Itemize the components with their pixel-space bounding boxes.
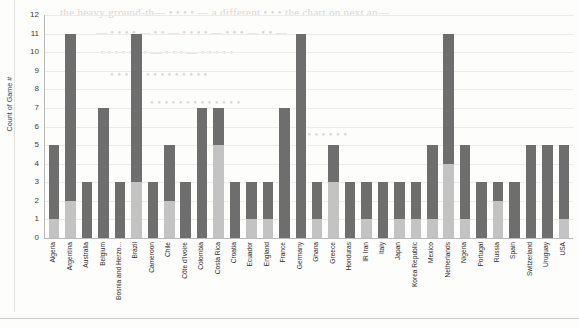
stacked-bar[interactable] — [65, 34, 76, 238]
stacked-bar[interactable] — [197, 108, 208, 238]
bar-column[interactable] — [194, 15, 210, 238]
bar-column[interactable] — [161, 15, 177, 238]
bar-segment-upper — [443, 34, 454, 164]
bar-segment-lower — [65, 201, 76, 238]
bar-column[interactable] — [556, 15, 572, 238]
bars-container — [45, 15, 573, 238]
bar-column[interactable] — [145, 15, 161, 238]
bar-column[interactable] — [375, 15, 391, 238]
stacked-bar[interactable] — [345, 182, 356, 238]
bar-column[interactable] — [210, 15, 226, 238]
bar-segment-lower — [411, 219, 422, 238]
x-axis-tick-label: Uruguay — [543, 242, 550, 267]
bar-column[interactable] — [243, 15, 259, 238]
stacked-bar[interactable] — [279, 108, 290, 238]
x-axis-label-slot: USA — [555, 240, 571, 320]
stacked-bar[interactable] — [131, 34, 142, 238]
bar-segment-lower — [460, 219, 471, 238]
bar-column[interactable] — [95, 15, 111, 238]
stacked-bar[interactable] — [542, 145, 553, 238]
stacked-bar[interactable] — [378, 182, 389, 238]
bar-column[interactable] — [325, 15, 341, 238]
bar-column[interactable] — [128, 15, 144, 238]
x-axis-label-slot: Bosnia and Herzo... — [111, 240, 127, 320]
bar-segment-upper — [476, 182, 487, 238]
stacked-bar[interactable] — [263, 182, 274, 238]
bar-segment-lower — [361, 219, 372, 238]
stacked-bar[interactable] — [328, 145, 339, 238]
bar-column[interactable] — [457, 15, 473, 238]
x-axis-label-slot: Netherlands — [440, 240, 456, 320]
stacked-bar[interactable] — [427, 145, 438, 238]
stacked-bar[interactable] — [476, 182, 487, 238]
bar-column[interactable] — [227, 15, 243, 238]
bar-segment-lower — [49, 219, 60, 238]
bar-segment-lower — [328, 182, 339, 238]
bar-column[interactable] — [358, 15, 374, 238]
bar-segment-upper — [82, 182, 93, 238]
x-axis-label-slot: Russia — [489, 240, 505, 320]
x-axis-label-slot: Japan — [390, 240, 406, 320]
x-axis-label-slot: Cameroon — [144, 240, 160, 320]
x-axis-label-slot: Australia — [78, 240, 94, 320]
y-axis-tick-label: 2 — [35, 197, 39, 205]
stacked-bar[interactable] — [411, 182, 422, 238]
x-axis-tick-label: Mexico — [428, 242, 435, 263]
stacked-bar[interactable] — [460, 145, 471, 238]
bar-column[interactable] — [424, 15, 440, 238]
bar-column[interactable] — [293, 15, 309, 238]
stacked-bar[interactable] — [526, 145, 537, 238]
x-axis-label-slot: Portugal — [472, 240, 488, 320]
stacked-bar[interactable] — [115, 182, 126, 238]
bar-column[interactable] — [112, 15, 128, 238]
bar-column[interactable] — [309, 15, 325, 238]
stacked-bar[interactable] — [361, 182, 372, 238]
stacked-bar[interactable] — [82, 182, 93, 238]
bar-column[interactable] — [178, 15, 194, 238]
stacked-bar[interactable] — [443, 34, 454, 238]
stacked-bar[interactable] — [164, 145, 175, 238]
x-axis-label-slot: Greece — [324, 240, 340, 320]
stacked-bar[interactable] — [559, 145, 570, 238]
stacked-bar[interactable] — [180, 182, 191, 238]
bar-column[interactable] — [342, 15, 358, 238]
bar-segment-lower — [427, 219, 438, 238]
stacked-bar[interactable] — [213, 108, 224, 238]
bar-segment-upper — [312, 182, 323, 219]
bar-column[interactable] — [408, 15, 424, 238]
stacked-bar[interactable] — [312, 182, 323, 238]
stacked-bar[interactable] — [230, 182, 241, 238]
x-axis-tick-label: Belgium — [99, 242, 106, 266]
bar-column[interactable] — [506, 15, 522, 238]
bar-column[interactable] — [276, 15, 292, 238]
x-axis-label-slot: Argentina — [61, 240, 77, 320]
stacked-bar[interactable] — [246, 182, 257, 238]
bar-column[interactable] — [473, 15, 489, 238]
stacked-bar[interactable] — [296, 34, 307, 238]
stacked-bar[interactable] — [98, 108, 109, 238]
bar-column[interactable] — [62, 15, 78, 238]
bar-column[interactable] — [523, 15, 539, 238]
x-axis-tick-label: Colombia — [198, 242, 205, 270]
bar-column[interactable] — [441, 15, 457, 238]
bar-column[interactable] — [539, 15, 555, 238]
bar-segment-upper — [345, 182, 356, 238]
bar-segment-upper — [246, 182, 257, 219]
x-axis-label-slot: Croatia — [226, 240, 242, 320]
bar-segment-lower — [263, 219, 274, 238]
bar-segment-upper — [98, 108, 109, 238]
page-bottom-rule — [0, 318, 579, 319]
stacked-bar[interactable] — [493, 182, 504, 238]
bar-column[interactable] — [490, 15, 506, 238]
stacked-bar[interactable] — [394, 182, 405, 238]
stacked-bar[interactable] — [509, 182, 520, 238]
bar-segment-upper — [427, 145, 438, 219]
x-axis-label-slot: Algeria — [45, 240, 61, 320]
bar-column[interactable] — [79, 15, 95, 238]
stacked-bar[interactable] — [49, 145, 60, 238]
y-axis-tick-label: 8 — [35, 85, 39, 93]
bar-column[interactable] — [260, 15, 276, 238]
bar-column[interactable] — [46, 15, 62, 238]
bar-column[interactable] — [391, 15, 407, 238]
stacked-bar[interactable] — [148, 182, 159, 238]
